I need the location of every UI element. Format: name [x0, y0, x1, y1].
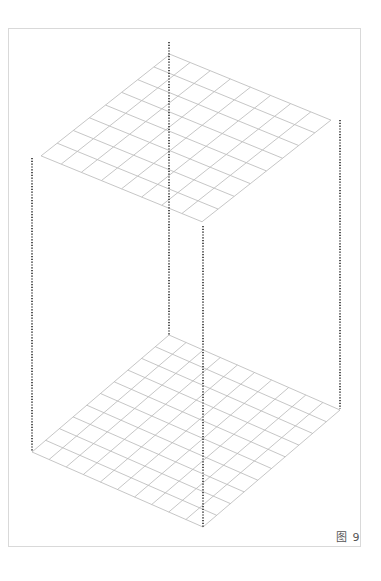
upper-grid [41, 54, 331, 222]
projection-diagram [0, 0, 381, 581]
figure-caption: 图 9 [336, 528, 361, 544]
lower-grid [32, 335, 340, 527]
